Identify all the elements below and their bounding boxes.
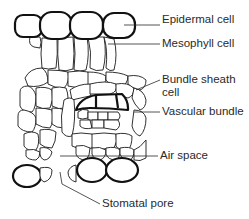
label-stomatal-pore: Stomatal pore [102,197,174,210]
mesophyll-cell [18,110,36,132]
mesophyll-cell [26,149,40,160]
label-vascular-bundle: Vascular bundle [162,105,244,118]
mesophyll-cell [20,86,36,112]
bundle-sheath-cell [132,88,146,110]
vascular-cell [80,120,92,129]
mesophyll-cell [104,37,116,71]
label-bundle-sheath-line2: cell [162,86,179,99]
mesophyll-cell [58,37,74,71]
label-air-space: Air space [160,149,208,162]
bundle-sheath-cell [132,110,146,136]
epidermal-cell [106,158,138,182]
mesophyll-cell [36,87,53,108]
mesophyll-cell [48,70,69,88]
bundle-sheath-cell [61,98,74,137]
mesophyll-cell [36,108,53,128]
bundle-sheath-cell [92,133,117,149]
epidermal-cell [103,13,135,38]
mesophyll-cell [41,38,57,69]
epidermal-cell [70,12,103,39]
mesophyll-cell [40,148,52,161]
epidermal-cell [15,15,42,37]
label-bundle-sheath-line1: Bundle sheath [162,73,236,86]
mesophyll-cell [74,37,88,71]
vascular-cell [78,109,88,119]
vascular-cell [88,112,98,120]
mesophyll-cell [88,37,105,71]
vascular-cell [98,112,108,120]
label-epidermal-cell: Epidermal cell [162,13,234,26]
vascular-cell [108,112,120,120]
epidermal-cell [40,12,72,39]
mesophyll-cell [30,37,42,48]
mesophyll-cell [24,132,39,151]
mesophyll-cell [25,68,48,87]
epidermal-cell [13,165,41,187]
mesophyll-cell [40,129,56,148]
label-mesophyll-cell: Mesophyll cell [162,37,234,50]
mesophyll-cell [134,140,146,161]
vascular-cell [104,120,120,130]
guard-cell [40,167,52,182]
vascular-cell [92,120,104,128]
epidermal-cell [77,158,107,182]
guard-cell [68,165,76,182]
bundle-sheath-cell [90,82,116,94]
